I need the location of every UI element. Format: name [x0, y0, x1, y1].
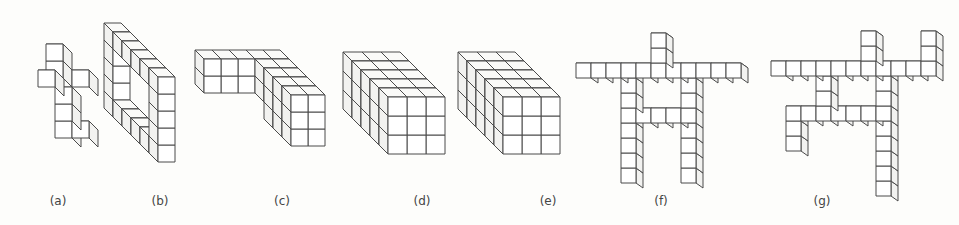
- cube-front-face: [541, 135, 560, 154]
- cube-front-face: [158, 145, 175, 162]
- cube-front-face: [621, 168, 636, 183]
- cube-front-face: [666, 108, 681, 123]
- voxel-figure: (a) (b) (c) (d) (e) (f) (g): [0, 0, 959, 225]
- cube-front-face: [46, 44, 63, 61]
- panel-label-a: (a): [50, 194, 67, 208]
- cube-front-face: [204, 59, 221, 76]
- cube-front-face: [621, 108, 636, 123]
- cube-front-face: [681, 93, 696, 108]
- cube-front-face: [621, 123, 636, 138]
- cube-front-face: [621, 153, 636, 168]
- cube-front-face: [861, 106, 876, 121]
- cube-front-face: [407, 116, 426, 135]
- panel-c: [195, 50, 325, 146]
- cube-front-face: [621, 93, 636, 108]
- cube-front-face: [221, 59, 238, 76]
- cube-front-face: [771, 61, 786, 76]
- cube-front-face: [541, 116, 560, 135]
- cube-side-face: [89, 121, 98, 147]
- cube-front-face: [651, 48, 666, 63]
- cube-front-face: [606, 63, 621, 78]
- cube-front-face: [876, 91, 891, 106]
- cube-front-face: [407, 135, 426, 154]
- cube-front-face: [113, 83, 130, 100]
- cube-front-face: [786, 121, 801, 136]
- cube-front-face: [681, 63, 696, 78]
- panel-b: [104, 23, 175, 162]
- cube-front-face: [816, 106, 831, 121]
- cube-front-face: [38, 70, 55, 87]
- cube-front-face: [681, 153, 696, 168]
- panel-label-b: (b): [152, 194, 169, 208]
- cube-front-face: [651, 63, 666, 78]
- cube-front-face: [816, 91, 831, 106]
- cube-front-face: [238, 59, 255, 76]
- cube-front-face: [407, 97, 426, 116]
- cube-front-face: [681, 168, 696, 183]
- cube-front-face: [876, 166, 891, 181]
- cube-front-face: [238, 76, 255, 93]
- panel-label-c: (c): [274, 194, 290, 208]
- cube-front-face: [503, 116, 522, 135]
- cube-front-face: [541, 97, 560, 116]
- cube-front-face: [786, 136, 801, 151]
- panel-a: [38, 44, 98, 147]
- cube-front-face: [158, 77, 175, 94]
- cube-front-face: [621, 63, 636, 78]
- panel-label-d: (d): [414, 194, 431, 208]
- panel-g: [771, 31, 943, 201]
- cube-front-face: [861, 31, 876, 46]
- cube-front-face: [921, 31, 936, 46]
- cube-side-face: [89, 70, 98, 96]
- cube-front-face: [55, 121, 72, 138]
- cube-front-face: [861, 61, 876, 76]
- cube-front-face: [522, 135, 541, 154]
- cube-front-face: [591, 63, 606, 78]
- cube-front-face: [503, 97, 522, 116]
- cube-front-face: [696, 63, 711, 78]
- cube-front-face: [681, 138, 696, 153]
- cube-front-face: [522, 116, 541, 135]
- cube-front-face: [426, 135, 445, 154]
- cube-front-face: [906, 61, 921, 76]
- cube-front-face: [308, 112, 325, 129]
- cube-front-face: [801, 61, 816, 76]
- cube-front-face: [388, 116, 407, 135]
- cube-front-face: [308, 95, 325, 112]
- cube-front-face: [636, 63, 651, 78]
- cube-front-face: [801, 106, 816, 121]
- cube-front-face: [221, 76, 238, 93]
- cube-front-face: [621, 138, 636, 153]
- cube-front-face: [291, 112, 308, 129]
- panel-label-f: (f): [654, 194, 668, 208]
- panel-label-g: (g): [814, 194, 831, 208]
- cube-front-face: [861, 46, 876, 61]
- panel-label-e: (e): [540, 194, 557, 208]
- cube-front-face: [72, 70, 89, 87]
- figure-canvas: [0, 0, 959, 225]
- cube-front-face: [786, 61, 801, 76]
- cube-front-face: [522, 97, 541, 116]
- cube-front-face: [876, 106, 891, 121]
- cube-front-face: [651, 108, 666, 123]
- cube-front-face: [921, 46, 936, 61]
- cube-front-face: [786, 106, 801, 121]
- cube-front-face: [503, 135, 522, 154]
- cube-side-face: [741, 63, 748, 83]
- cube-front-face: [816, 61, 831, 76]
- cube-front-face: [158, 94, 175, 111]
- cube-front-face: [711, 63, 726, 78]
- cube-front-face: [876, 136, 891, 151]
- cube-front-face: [426, 116, 445, 135]
- cube-front-face: [831, 61, 846, 76]
- cube-front-face: [291, 95, 308, 112]
- cube-front-face: [388, 97, 407, 116]
- cube-front-face: [291, 129, 308, 146]
- cube-front-face: [388, 135, 407, 154]
- cube-front-face: [158, 128, 175, 145]
- cube-front-face: [876, 181, 891, 196]
- cube-front-face: [113, 66, 130, 83]
- cube-front-face: [846, 61, 861, 76]
- cube-front-face: [846, 106, 861, 121]
- panel-e: [458, 52, 560, 154]
